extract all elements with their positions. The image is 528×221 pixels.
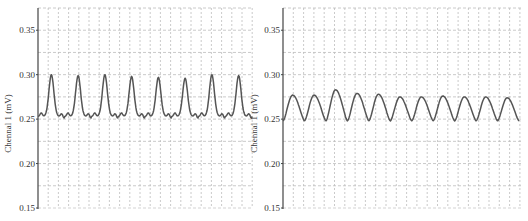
y-tick-label: 0.35	[264, 25, 280, 35]
signal-line	[38, 75, 252, 118]
y-tick-label: 0.30	[264, 70, 280, 80]
y-tick-label: 0.35	[19, 25, 35, 35]
y-axis-label: Chennal 1 (mV)	[3, 94, 13, 153]
left-chart: 0.350.300.250.200.15Chennal 1 (mV)	[0, 0, 262, 221]
y-axis-label: Chennal 1 (mV)	[249, 94, 259, 153]
y-tick-label: 0.25	[264, 114, 280, 124]
left-chart-svg: 0.350.300.250.200.15Chennal 1 (mV)	[0, 0, 262, 221]
y-tick-label: 0.25	[19, 114, 35, 124]
signal-line	[283, 90, 519, 121]
figure-caption	[0, 210, 528, 221]
y-tick-label: 0.30	[19, 70, 35, 80]
right-chart-svg: 0.350.300.250.200.15Chennal 1 (mV)	[245, 0, 528, 221]
y-tick-label: 0.20	[264, 159, 280, 169]
right-chart: 0.350.300.250.200.15Chennal 1 (mV)	[245, 0, 528, 221]
y-tick-label: 0.20	[19, 159, 35, 169]
